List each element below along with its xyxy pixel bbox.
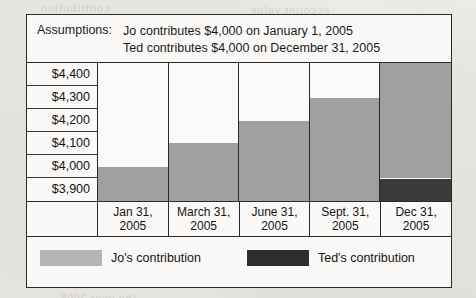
legend-label-ted: Ted's contribution <box>318 251 415 265</box>
bar-segment-jo <box>169 143 239 201</box>
bar-column <box>380 63 451 201</box>
legend-band: Jo's contribution Ted's contribution <box>27 237 451 287</box>
x-axis-label-line: 2005 <box>332 219 359 233</box>
assumptions-lines: Jo contributes $4,000 on January 1, 2005… <box>123 23 380 56</box>
bar-segment-jo <box>380 63 451 178</box>
y-axis-labels: $4,400 $4,300 $4,200 $4,100 $4,000 $3,90… <box>27 63 98 201</box>
x-axis-label-line: 2005 <box>190 219 217 233</box>
chart-frame: Assumptions: Jo contributes $4,000 on Ja… <box>26 14 452 288</box>
bar-segment-jo <box>98 167 168 202</box>
bar-column <box>239 63 310 201</box>
x-axis-label-line: 2005 <box>261 219 288 233</box>
x-axis-labels: Jan 31,2005March 31,2005June 31,2005Sept… <box>27 201 451 237</box>
assumptions-box: Assumptions: Jo contributes $4,000 on Ja… <box>27 15 451 63</box>
assumption-line-jo: Jo contributes $4,000 on January 1, 2005 <box>123 23 380 40</box>
legend: Jo's contribution Ted's contribution <box>27 245 451 271</box>
x-axis-corner <box>27 202 98 236</box>
y-tick-3900: $3,900 <box>27 178 97 201</box>
bar-segment-jo <box>239 121 309 201</box>
assumptions-label: Assumptions: <box>37 23 112 37</box>
assumption-line-ted: Ted contributes $4,000 on December 31, 2… <box>123 40 380 57</box>
x-axis-label-5: Dec 31,2005 <box>381 202 451 236</box>
x-axis-label-3: June 31,2005 <box>240 202 311 236</box>
y-tick-4000: $4,000 <box>27 155 97 178</box>
legend-item-jo: Jo's contribution <box>40 250 201 266</box>
plot-area-wrapper: $4,400 $4,300 $4,200 $4,100 $4,000 $3,90… <box>27 63 451 201</box>
bars-plot <box>98 63 451 201</box>
x-axis-label-line: Jan 31, <box>113 205 152 219</box>
x-axis-label-2: March 31,2005 <box>169 202 240 236</box>
x-axis-label-line: Dec 31, <box>395 205 436 219</box>
x-axis-label-line: Sept. 31, <box>321 205 369 219</box>
x-axis-label-4: Sept. 31,2005 <box>310 202 381 236</box>
y-tick-4300: $4,300 <box>27 86 97 109</box>
x-axis-label-line: June 31, <box>251 205 297 219</box>
bar-segment-ted <box>380 178 451 201</box>
y-tick-4400: $4,400 <box>27 63 97 86</box>
x-axis-cells: Jan 31,2005March 31,2005June 31,2005Sept… <box>98 202 451 236</box>
legend-swatch-jo-icon <box>40 250 102 266</box>
x-axis-label-line: March 31, <box>177 205 230 219</box>
legend-item-ted: Ted's contribution <box>247 250 415 266</box>
legend-label-jo: Jo's contribution <box>111 251 201 265</box>
x-axis-label-1: Jan 31,2005 <box>98 202 169 236</box>
x-axis-label-line: 2005 <box>120 219 147 233</box>
bar-segment-jo <box>310 98 380 202</box>
bar-column <box>98 63 169 201</box>
x-axis-label-line: 2005 <box>403 219 430 233</box>
bar-column <box>169 63 240 201</box>
bar-column <box>310 63 381 201</box>
y-tick-4100: $4,100 <box>27 132 97 155</box>
legend-swatch-ted-icon <box>247 250 309 266</box>
y-tick-4200: $4,200 <box>27 109 97 132</box>
